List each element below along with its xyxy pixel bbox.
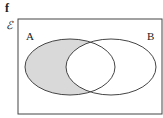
venn-diagram [0,0,163,118]
set-b-label: B [147,31,154,42]
set-a-label: A [26,31,34,42]
